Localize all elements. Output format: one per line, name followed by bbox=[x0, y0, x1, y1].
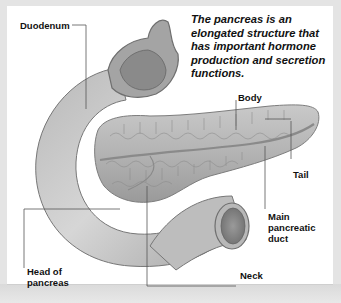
label-main-duct-line3: duct bbox=[268, 233, 316, 244]
label-tail: Tail bbox=[293, 169, 309, 180]
label-main-pancreatic-duct: Main pancreatic duct bbox=[268, 211, 316, 244]
figure-caption: The pancreas is an elongated structure t… bbox=[191, 13, 331, 81]
label-body: Body bbox=[238, 92, 262, 103]
label-main-duct-line1: Main bbox=[268, 211, 316, 222]
pancreas-shape bbox=[95, 105, 319, 202]
label-duodenum: Duodenum bbox=[20, 20, 70, 31]
label-head-of-pancreas: Head of pancreas bbox=[27, 266, 69, 288]
label-head-line1: Head of bbox=[27, 266, 69, 277]
label-main-duct-line2: pancreatic bbox=[268, 222, 316, 233]
label-neck: Neck bbox=[240, 270, 263, 281]
label-head-line2: pancreas bbox=[27, 277, 69, 288]
